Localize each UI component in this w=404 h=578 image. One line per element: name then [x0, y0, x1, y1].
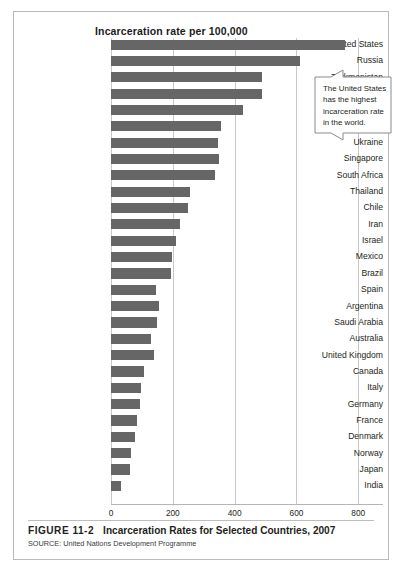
caption-heading: FIGURE 11-2Incarceration Rates for Selec… — [28, 525, 378, 536]
bar-track — [111, 383, 383, 393]
bar — [111, 154, 219, 164]
figure-title: Incarceration Rates for Selected Countri… — [103, 525, 335, 536]
bar-track — [111, 268, 383, 278]
bar-row: Germany — [23, 398, 383, 414]
bar — [111, 383, 141, 393]
bar-row: Canada — [23, 365, 383, 381]
bar-row: Japan — [23, 463, 383, 479]
x-tick-label: 0 — [109, 508, 114, 518]
bar-row: United States — [23, 38, 383, 54]
bar — [111, 415, 137, 425]
bar-track — [111, 219, 383, 229]
bar-track — [111, 350, 383, 360]
callout-text: The United States has the highest incarc… — [323, 83, 389, 129]
bar-track — [111, 236, 383, 246]
bar — [111, 89, 262, 99]
bar-row: Israel — [23, 234, 383, 250]
figure-caption: FIGURE 11-2Incarceration Rates for Selec… — [28, 525, 378, 548]
bar-row: Iran — [23, 218, 383, 234]
bar — [111, 366, 144, 376]
bar — [111, 285, 156, 295]
bar — [111, 432, 135, 442]
bar-row: Spain — [23, 283, 383, 299]
bar-track — [111, 317, 383, 327]
figure-number: FIGURE 11-2 — [28, 525, 94, 536]
bar-track — [111, 285, 383, 295]
bar-row: Chile — [23, 201, 383, 217]
bar-track — [111, 252, 383, 262]
bar — [111, 203, 188, 213]
bar-track — [111, 154, 383, 164]
bar-track — [111, 432, 383, 442]
x-tick-label: 600 — [290, 508, 304, 518]
bar — [111, 40, 345, 50]
bar — [111, 56, 300, 66]
bar-row: United Kingdom — [23, 349, 383, 365]
bar — [111, 138, 218, 148]
bar-track — [111, 203, 383, 213]
bar — [111, 334, 151, 344]
bar — [111, 464, 130, 474]
bar — [111, 236, 176, 246]
bar-row: India — [23, 479, 383, 495]
x-tick-label: 200 — [166, 508, 180, 518]
figure-source: SOURCE: United Nations Development Progr… — [28, 539, 378, 548]
bar — [111, 187, 190, 197]
bar-track — [111, 334, 383, 344]
caption-divider — [28, 520, 374, 521]
bar-row: Thailand — [23, 185, 383, 201]
bar-track — [111, 56, 383, 66]
bar-row: Australia — [23, 332, 383, 348]
bar — [111, 481, 121, 491]
bar-row: Saudi Arabia — [23, 316, 383, 332]
bar-track — [111, 366, 383, 376]
bar — [111, 121, 221, 131]
bar-row: Norway — [23, 447, 383, 463]
bar — [111, 72, 262, 82]
callout-annotation: The United States has the highest incarc… — [313, 69, 393, 142]
bar-track — [111, 448, 383, 458]
figure-frame: Incarceration rate per 100,000 United St… — [13, 11, 389, 560]
bar-track — [111, 301, 383, 311]
bar — [111, 105, 243, 115]
bar — [111, 268, 171, 278]
bar-row: South Africa — [23, 169, 383, 185]
bar — [111, 350, 154, 360]
bar-row: Argentina — [23, 300, 383, 316]
bar — [111, 399, 140, 409]
bar-track — [111, 40, 383, 50]
bar — [111, 448, 131, 458]
bar-row: Singapore — [23, 152, 383, 168]
bar — [111, 317, 157, 327]
bar-row: Italy — [23, 381, 383, 397]
bar-row: Mexico — [23, 250, 383, 266]
bar-track — [111, 399, 383, 409]
chart-title: Incarceration rate per 100,000 — [95, 25, 248, 37]
x-tick-label: 400 — [228, 508, 242, 518]
bar-track — [111, 464, 383, 474]
bar-track — [111, 170, 383, 180]
x-axis-line — [111, 504, 383, 505]
bar-track — [111, 481, 383, 491]
bar-track — [111, 187, 383, 197]
bar — [111, 301, 159, 311]
bar — [111, 170, 215, 180]
x-tick-label: 800 — [351, 508, 365, 518]
bar — [111, 219, 180, 229]
bar-track — [111, 415, 383, 425]
bar-row: France — [23, 414, 383, 430]
bar-row: Brazil — [23, 267, 383, 283]
bar-row: Denmark — [23, 430, 383, 446]
bar — [111, 252, 172, 262]
